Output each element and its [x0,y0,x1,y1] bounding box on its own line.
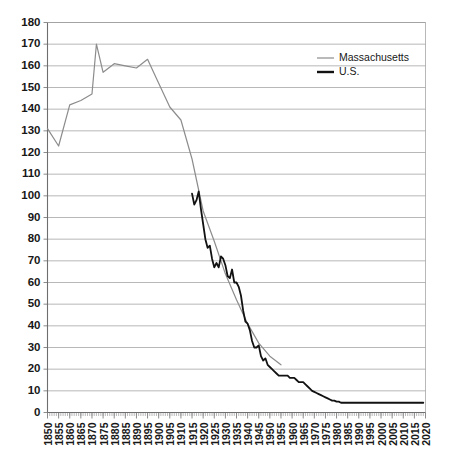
y-tick-label: 90 [28,211,41,223]
y-tick-label: 110 [22,167,41,179]
series-line [48,44,281,365]
data-series [48,44,424,403]
y-tick-labels: 0102030405060708090100110120130140150160… [21,16,40,418]
grid-lines [48,23,426,413]
y-tick-label: 160 [21,59,40,71]
x-tick-labels: 1850185518601865187018751880188518901895… [42,422,432,446]
y-tick-label: 10 [28,384,41,396]
y-tick-label: 180 [21,16,40,28]
y-tick-label: 150 [21,81,40,93]
series-line [192,192,423,403]
y-tick-label: 30 [28,341,41,353]
y-tick-label: 120 [21,146,40,158]
legend-label: U.S. [339,65,359,77]
y-tick-label: 70 [28,254,41,266]
chart-canvas: 0102030405060708090100110120130140150160… [0,0,460,474]
y-tick-label: 40 [28,319,41,331]
legend-label: Massachusetts [339,51,409,63]
y-tick-label: 0 [34,406,40,418]
line-chart: 0102030405060708090100110120130140150160… [0,0,460,474]
y-tick-label: 60 [28,276,41,288]
y-tick-label: 20 [28,362,41,374]
y-tick-label: 50 [28,297,41,309]
y-axis [44,23,48,413]
y-tick-label: 140 [21,102,40,114]
y-tick-label: 80 [28,232,41,244]
y-tick-label: 100 [21,189,40,201]
y-tick-label: 170 [21,37,40,49]
chart-legend: MassachusettsU.S. [317,51,409,77]
y-tick-label: 130 [21,124,40,136]
x-tick-label: 2020 [420,422,432,446]
